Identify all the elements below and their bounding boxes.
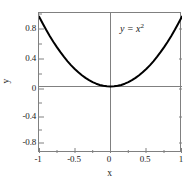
annotation-equals: = [127, 23, 133, 34]
xtick-label--1: -1 [23, 155, 53, 164]
xtick-label-0.5: 0.5 [130, 155, 160, 164]
xtick-label--0.5: -0.5 [59, 155, 89, 164]
annotation-y: y [120, 23, 124, 34]
curve-annotation: y=x2 [120, 23, 144, 34]
chart-figure: 0.8 0.4 0 -0.4 -0.8 -1 -0.5 0 0.5 1 x y … [0, 0, 191, 183]
xtick-label-1: 1 [166, 155, 191, 164]
xtick-label-0: 0 [94, 155, 124, 164]
x-axis-label: x [38, 168, 181, 178]
annotation-exponent: 2 [141, 22, 145, 30]
ytick-label-0.8: 0.8 [6, 24, 36, 33]
ytick-label--0.8: -0.8 [6, 138, 36, 147]
ytick-label-0.4: 0.4 [6, 54, 36, 63]
ytick-label--0.4: -0.4 [6, 112, 36, 121]
plot-canvas [39, 13, 182, 153]
plot-area [38, 12, 181, 152]
y-axis-label: y [1, 69, 11, 93]
